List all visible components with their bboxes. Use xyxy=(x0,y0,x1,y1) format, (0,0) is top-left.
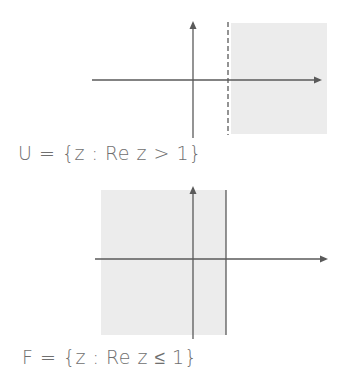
diagram-f xyxy=(95,188,326,339)
caption-f: F = {z : Re z ≤ 1} xyxy=(22,348,197,367)
shaded-region-re-le-1 xyxy=(101,190,226,335)
shaded-region-re-gt-1 xyxy=(231,23,327,134)
caption-u: U = {z : Re z > 1} xyxy=(18,144,202,163)
complex-plane-figure xyxy=(0,0,340,388)
diagram-u xyxy=(92,22,327,138)
